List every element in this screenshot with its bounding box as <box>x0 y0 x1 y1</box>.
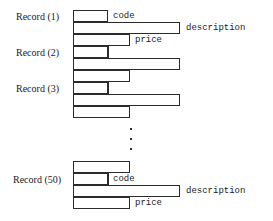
record-label-record-2: Record (2) <box>16 47 59 59</box>
field-bar-code <box>73 173 108 185</box>
field-bar-description <box>73 58 180 70</box>
record-label-record-3: Record (3) <box>16 83 59 95</box>
field-divider-tick <box>108 82 109 94</box>
field-label-price-label-bottom: price <box>135 197 162 209</box>
field-bar-code <box>73 10 108 22</box>
ellipsis-dot <box>130 138 132 140</box>
field-label-description-label-bottom: description <box>186 185 245 197</box>
field-label-code-label-bottom: code <box>113 173 135 185</box>
field-label-description-label-top: description <box>186 22 245 34</box>
field-divider-tick <box>108 46 109 58</box>
field-bar-code <box>73 46 108 58</box>
field-label-price-label-top: price <box>135 34 162 46</box>
ellipsis-dot <box>130 128 132 130</box>
record-label-record-50: Record (50) <box>13 174 61 186</box>
record-label-record-1: Record (1) <box>16 11 59 23</box>
field-bar-description <box>73 94 180 106</box>
field-bar-price <box>73 197 130 209</box>
field-bar-price <box>73 70 130 82</box>
field-bar-description <box>73 22 180 34</box>
field-bar-code <box>73 82 108 94</box>
record-layout-diagram: Record (1)Record (2)Record (3)Record (50… <box>0 0 273 221</box>
field-bar-price <box>73 161 130 173</box>
field-bar-description <box>73 185 180 197</box>
field-bar-price <box>73 34 130 46</box>
ellipsis-dot <box>130 148 132 150</box>
field-bar-price <box>73 106 130 118</box>
field-divider-tick <box>108 173 109 185</box>
field-label-code-label-top: code <box>113 10 135 22</box>
